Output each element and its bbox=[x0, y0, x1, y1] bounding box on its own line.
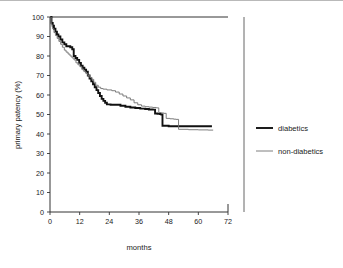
y-axis: 0102030405060708090100 bbox=[32, 13, 50, 217]
x-tick-label-48: 48 bbox=[165, 217, 173, 226]
y-tick-label-60: 60 bbox=[36, 91, 44, 100]
y-tick-label-70: 70 bbox=[36, 71, 44, 80]
series-layer bbox=[50, 17, 213, 130]
legend-label-diabetics: diabetics bbox=[278, 124, 308, 133]
x-axis-title: months bbox=[127, 243, 152, 252]
y-axis-title: primary patency (%) bbox=[13, 81, 22, 149]
y-tick-label-0: 0 bbox=[40, 208, 44, 217]
chart-legend: diabeticsnon-diabetics bbox=[256, 124, 323, 156]
y-tick-label-90: 90 bbox=[36, 32, 44, 41]
y-tick-label-20: 20 bbox=[36, 169, 44, 178]
x-tick-label-0: 0 bbox=[48, 217, 52, 226]
plot-frame bbox=[50, 17, 228, 212]
x-axis: 0122436486072 bbox=[48, 212, 232, 226]
series-line-diabetics bbox=[50, 17, 212, 126]
survival-curve-chart: 0102030405060708090100 0122436486072 mon… bbox=[0, 0, 343, 268]
figure-container: 0102030405060708090100 0122436486072 mon… bbox=[0, 0, 343, 268]
series-line-non-diabetics bbox=[50, 17, 213, 130]
x-tick-label-72: 72 bbox=[224, 217, 232, 226]
x-tick-label-36: 36 bbox=[135, 217, 143, 226]
x-tick-label-60: 60 bbox=[194, 217, 202, 226]
y-tick-label-30: 30 bbox=[36, 149, 44, 158]
y-tick-label-10: 10 bbox=[36, 188, 44, 197]
y-tick-label-50: 50 bbox=[36, 110, 44, 119]
y-tick-label-40: 40 bbox=[36, 130, 44, 139]
y-tick-label-100: 100 bbox=[32, 13, 44, 22]
legend-label-non-diabetics: non-diabetics bbox=[278, 147, 323, 156]
y-tick-label-80: 80 bbox=[36, 52, 44, 61]
x-tick-label-24: 24 bbox=[105, 217, 113, 226]
x-tick-label-12: 12 bbox=[76, 217, 84, 226]
